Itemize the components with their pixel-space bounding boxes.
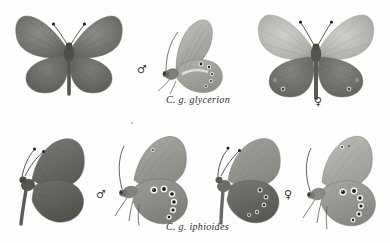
dust-speck: [131, 122, 133, 124]
wing-group: [176, 20, 222, 93]
female-symbol-iphioides: ♀: [284, 189, 292, 200]
wing-group: [32, 139, 84, 222]
specimen-iphioides-female-ventral: [296, 128, 388, 240]
male-symbol-glycerion: ♂: [137, 64, 147, 75]
antenna: [306, 148, 311, 191]
legs: [158, 79, 176, 94]
antenna: [119, 146, 124, 189]
male-symbol-iphioides: ♂: [96, 189, 106, 200]
caption-glycerion: C. g. glycerion: [166, 94, 230, 105]
specimen-glycerion-male-dorsal: [8, 6, 130, 104]
wing-group: [227, 139, 280, 223]
wing-group: [133, 137, 187, 224]
specimen-plate: C. g. glycerion C. g. iphioides ♂ ♀ ♂ ♀: [0, 0, 390, 243]
female-symbol-glycerion: ♀: [314, 96, 322, 107]
specimen-glycerion-female-dorsal: [252, 6, 380, 106]
wing-group: [321, 136, 375, 225]
specimen-glycerion-male-ventral: [152, 12, 238, 98]
specimen-iphioides-male-dorsal: [6, 128, 104, 236]
caption-iphioides: C. g. iphioides: [166, 221, 229, 232]
specimen-iphioides-male-ventral: [108, 128, 204, 236]
specimen-iphioides-female-dorsal: [204, 128, 292, 236]
